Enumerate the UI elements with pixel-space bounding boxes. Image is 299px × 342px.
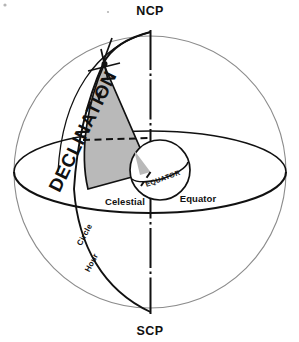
celestial-sphere-diagram: Celestial sphere showing declination and…	[0, 0, 299, 342]
scan-speck	[3, 3, 6, 6]
label-celestial: Celestial	[105, 196, 145, 207]
label-scp: SCP	[137, 324, 164, 338]
label-equator: Equator	[180, 193, 217, 204]
star-marker	[102, 61, 108, 67]
diagram-canvas: Celestial sphere showing declination and…	[0, 0, 299, 342]
label-circle: Circle	[75, 222, 94, 247]
label-hour: Hour	[83, 252, 100, 273]
scan-speck	[107, 11, 109, 13]
label-ncp: NCP	[136, 4, 164, 18]
